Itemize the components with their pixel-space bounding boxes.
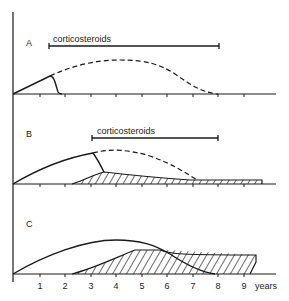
panel-a	[13, 43, 276, 97]
treatment-label-a: corticosteroids	[53, 35, 111, 44]
panel-b	[13, 135, 276, 187]
x-tick-label: 1	[37, 282, 42, 291]
panel-label-b: B	[26, 130, 32, 139]
x-axis-unit-label: years	[255, 282, 277, 291]
panel-c	[13, 240, 276, 277]
expected-curve-a	[50, 60, 218, 94]
x-tick-label: 9	[241, 282, 246, 291]
x-tick-label: 4	[113, 282, 118, 291]
x-tick-label: 3	[88, 282, 93, 291]
observed-curve-a	[13, 76, 62, 94]
x-tick-label: 5	[139, 282, 144, 291]
x-tick-label: 2	[62, 282, 67, 291]
x-tick-label: 7	[190, 282, 195, 291]
x-tick-label: 6	[164, 282, 169, 291]
panel-label-c: C	[26, 220, 33, 229]
diagram-canvas	[0, 0, 289, 301]
treatment-label-b: corticosteroids	[97, 127, 155, 136]
x-tick-label: 8	[215, 282, 220, 291]
panel-label-a: A	[26, 39, 32, 48]
complications-area-c	[72, 250, 256, 274]
